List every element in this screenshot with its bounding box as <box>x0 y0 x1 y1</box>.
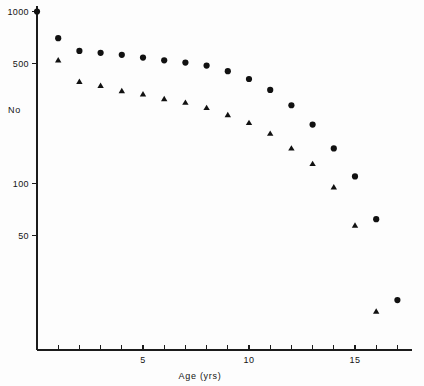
y-tick-label-1000: 1000 <box>7 7 29 17</box>
data-point-triangle-5 <box>140 91 146 96</box>
data-point-circle-11 <box>267 87 273 93</box>
data-point-triangle-16 <box>373 308 379 313</box>
data-point-triangle-15 <box>352 222 358 227</box>
y-tick-label-500: 500 <box>13 59 29 69</box>
plot-area: 10005001005051015NoAge (yrs) <box>0 0 424 386</box>
data-point-triangle-11 <box>267 130 273 135</box>
data-point-triangle-12 <box>288 145 294 150</box>
data-point-triangle-1 <box>55 57 61 62</box>
data-point-circle-16 <box>373 216 379 222</box>
data-point-triangle-13 <box>309 161 315 166</box>
x-tick-label-15: 15 <box>350 355 361 365</box>
data-point-circle-4 <box>119 52 125 58</box>
data-point-circle-12 <box>288 102 294 108</box>
y-tick-label-50: 50 <box>18 231 29 241</box>
x-tick-label-10: 10 <box>244 355 255 365</box>
data-point-circle-15 <box>352 173 358 179</box>
data-point-triangle-2 <box>76 79 82 84</box>
data-point-triangle-14 <box>331 184 337 189</box>
data-point-circle-8 <box>204 62 210 68</box>
y-axis-title: No <box>8 105 21 115</box>
series-triangles <box>55 57 379 314</box>
y-tick-label-100: 100 <box>13 179 29 189</box>
data-point-triangle-7 <box>182 99 188 104</box>
data-point-triangle-8 <box>203 105 209 110</box>
data-point-circle-3 <box>98 50 104 56</box>
data-point-circle-14 <box>331 145 337 151</box>
data-point-triangle-6 <box>161 96 167 101</box>
data-point-circle-1 <box>55 35 61 41</box>
series-circles <box>34 8 401 303</box>
data-point-triangle-3 <box>97 83 103 88</box>
data-point-circle-2 <box>76 48 82 54</box>
data-point-triangle-9 <box>225 112 231 117</box>
data-point-triangle-10 <box>246 120 252 125</box>
x-axis-title: Age (yrs) <box>179 371 222 381</box>
data-point-circle-17 <box>394 297 400 303</box>
data-point-triangle-4 <box>119 88 125 93</box>
scatter-chart: 10005001005051015NoAge (yrs) <box>0 0 424 386</box>
data-point-circle-13 <box>310 122 316 128</box>
data-point-circle-5 <box>140 54 146 60</box>
data-point-circle-0 <box>34 8 40 14</box>
data-point-circle-10 <box>246 76 252 82</box>
data-point-circle-6 <box>161 57 167 63</box>
x-tick-label-5: 5 <box>140 355 145 365</box>
data-point-circle-7 <box>182 59 188 65</box>
data-point-circle-9 <box>225 68 231 74</box>
